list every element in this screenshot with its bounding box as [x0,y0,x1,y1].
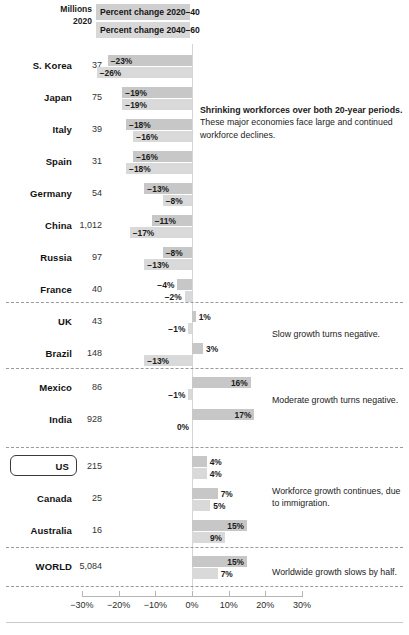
x-axis: −30%−20%−10%0%10%20%30% [0,590,409,620]
axis-tick [82,591,83,597]
bar-2040-60: −17% [130,227,192,238]
bar-2020-40: −11% [152,215,192,226]
axis-tick [265,591,266,597]
footer-rule [6,622,403,623]
bar-2020-40: 3% [192,343,203,354]
bar-value-label: −23% [111,56,133,66]
bar-value-label: 0% [177,422,189,432]
bar-value-label: 17% [235,410,252,420]
axis-tick [192,591,193,597]
annotation-group-5: Worldwide growth slows by half. [272,566,407,578]
table-row: France40−4%−2% [0,276,409,308]
table-row: Australia1615%9% [0,517,409,549]
annotation-group-1-body: These major economies face large and con… [200,117,393,139]
bar-2020-40: −8% [163,247,192,258]
axis-tick-label: −30% [62,600,102,610]
bar-2020-40: −16% [133,151,192,162]
bar-2020-40: 15% [192,556,247,567]
bar-2040-60: −1% [188,323,192,334]
axis-tick-label: −10% [135,600,175,610]
legend-band-2020-40: Percent change 2020–40 [96,4,190,20]
annotation-group-4: Workforce growth continues, due to immig… [272,485,402,510]
bar-2040-60: −13% [144,355,192,366]
chart-header: Millions 2020 Percent change 2020–40 Per… [0,4,409,42]
axis-tick-label: 0% [172,600,212,610]
annotation-group-1-bold: Shrinking workforces over both 20-year p… [200,105,402,115]
bar-value-label: 7% [221,489,233,499]
bar-value-label: −11% [155,216,176,226]
legend-band-2040-60: Percent change 2040–60 [96,22,190,38]
bar-value-label: −16% [136,132,158,142]
bar-value-label: 15% [227,521,244,531]
axis-tick [302,591,303,597]
row-bars: −13%−8% [0,180,409,212]
bar-value-label: −19% [125,100,147,110]
bar-value-label: −16% [136,152,158,162]
table-row: S. Korea37−23%−26% [0,52,409,84]
bar-2040-60: −16% [133,131,192,142]
bar-2040-60: −1% [188,389,192,400]
bar-value-label: 4% [210,457,222,467]
group-separator [6,547,403,548]
bar-2040-60: 5% [192,500,210,511]
bar-2040-60: 7% [192,568,218,579]
axis-tick [229,591,230,597]
table-row: India92817%0% [0,406,409,438]
bar-2020-40: 15% [192,520,247,531]
group-separator [6,368,403,369]
bar-2040-60: −8% [163,195,192,206]
axis-tick [155,591,156,597]
bar-value-label: 4% [210,469,222,479]
axis-tick-label: 20% [245,600,285,610]
bar-value-label: −13% [147,356,169,366]
bar-2040-60: 4% [192,468,207,479]
table-row: Russia97−8%−13% [0,244,409,276]
units-line2: 2020 [30,16,92,28]
row-bars: −4%−2% [0,276,409,308]
bar-2040-60: −18% [126,163,192,174]
row-bars: 4%4% [0,453,409,485]
group-separator [6,447,403,448]
bar-value-label: −1% [168,324,185,334]
bar-value-label: −13% [147,260,169,270]
bar-value-label: −17% [133,228,155,238]
bar-value-label: 1% [199,312,211,322]
row-bars: 17%0% [0,406,409,438]
table-row: Spain31−16%−18% [0,148,409,180]
bar-value-label: 7% [221,569,233,579]
row-bars: −8%−13% [0,244,409,276]
bar-2040-60: −13% [144,259,192,270]
bar-value-label: 15% [227,557,244,567]
annotation-group-3: Moderate growth turns negative. [272,394,407,406]
legend-label-2020-40: Percent change 2020–40 [100,7,200,17]
axis-tick-label: 10% [209,600,249,610]
row-bars: −11%−17% [0,212,409,244]
bar-2020-40: −18% [126,119,192,130]
bar-value-label: 5% [213,501,225,511]
axis-tick-label: 30% [282,600,322,610]
bar-value-label: −26% [100,68,122,78]
annotation-group-1: Shrinking workforces over both 20-year p… [200,104,409,141]
bar-value-label: −13% [147,184,169,194]
group-separator [6,302,403,303]
units-line1: Millions [30,4,92,16]
bar-2020-40: 1% [192,311,196,322]
row-bars: −23%−26% [0,52,409,84]
bar-2040-60: 9% [192,532,225,543]
units-label: Millions 2020 [30,4,92,27]
bar-2020-40: 16% [192,377,251,388]
bar-2020-40: 4% [192,456,207,467]
axis-tick [119,591,120,597]
table-row: US2154%4% [0,453,409,485]
bar-2020-40: 17% [192,409,254,420]
row-bars: 15%9% [0,517,409,549]
table-row: China1,012−11%−17% [0,212,409,244]
bar-value-label: −4% [157,280,174,290]
bar-2040-60: −2% [185,291,192,302]
bar-2020-40: −13% [144,183,192,194]
bar-2020-40: 7% [192,488,218,499]
bar-value-label: −8% [166,196,183,206]
bar-value-label: −18% [129,120,151,130]
table-row: Germany54−13%−8% [0,180,409,212]
workforce-change-chart: Millions 2020 Percent change 2020–40 Per… [0,0,409,635]
